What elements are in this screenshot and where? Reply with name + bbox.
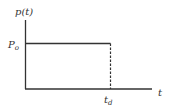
x-axis-label: t (158, 87, 163, 98)
y-axis-label: p(t) (15, 6, 33, 17)
pulse-diagram: p(t) Po t td (0, 0, 170, 110)
duration-label: td (104, 94, 113, 107)
amplitude-label: Po (7, 39, 19, 52)
